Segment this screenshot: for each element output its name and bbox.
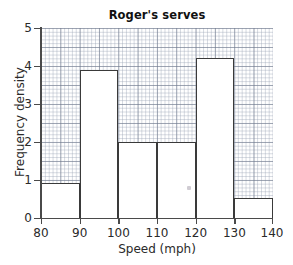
- x-tick-label: 90: [60, 226, 100, 240]
- y-axis-tick: [34, 180, 40, 181]
- x-axis-tick: [80, 218, 81, 224]
- y-axis-tick: [34, 66, 40, 67]
- histogram-figure: Roger's serves 5 4 3 2 1 0 80 90 100 110…: [0, 0, 293, 265]
- y-axis-tick: [34, 218, 40, 219]
- x-axis-tick: [157, 218, 158, 224]
- chart-title: Roger's serves: [41, 8, 273, 22]
- x-axis-tick: [118, 218, 119, 224]
- y-axis-tick: [34, 104, 40, 105]
- x-axis-tick: [234, 218, 235, 224]
- x-axis-tick: [41, 218, 42, 224]
- histogram-bar: [196, 58, 235, 218]
- histogram-bar: [118, 142, 157, 218]
- y-tick-label: 5: [10, 22, 32, 34]
- histogram-bar: [80, 70, 119, 218]
- plot-area: [41, 28, 273, 218]
- x-tick-label: 120: [176, 226, 216, 240]
- x-axis-title: Speed (mph): [41, 242, 273, 256]
- x-tick-label: 80: [21, 226, 61, 240]
- y-axis-title: Frequency density: [13, 42, 27, 202]
- x-tick-label: 110: [137, 226, 177, 240]
- y-axis-tick: [34, 142, 40, 143]
- x-tick-label: 100: [98, 226, 138, 240]
- x-tick-label: 130: [214, 226, 254, 240]
- y-tick-label: 0: [10, 212, 32, 224]
- histogram-bar: [41, 183, 80, 218]
- paper-smudge-artifact: [187, 186, 191, 190]
- y-axis-line: [40, 27, 42, 219]
- y-axis-tick: [34, 28, 40, 29]
- histogram-bar: [157, 142, 196, 218]
- x-tick-label: 140: [252, 226, 292, 240]
- x-axis-tick: [196, 218, 197, 224]
- x-axis-tick: [272, 218, 273, 224]
- histogram-bar: [234, 198, 273, 218]
